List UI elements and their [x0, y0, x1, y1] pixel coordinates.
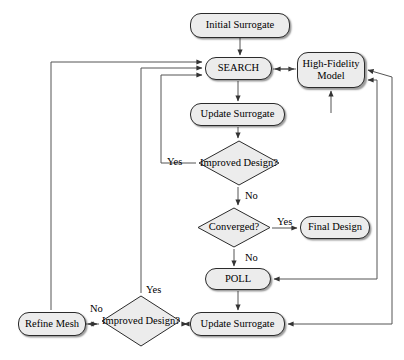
node-refine-mesh-label: Refine Mesh [25, 318, 79, 331]
edge-label-no-improved-bottom: No [90, 303, 103, 314]
node-final-design[interactable]: Final Design [300, 216, 370, 239]
node-initial-surrogate-label: Initial Surrogate [206, 19, 275, 32]
node-update-surrogate-bottom-label: Update Surrogate [201, 318, 275, 331]
node-update-surrogate-bottom[interactable]: Update Surrogate [190, 312, 285, 336]
node-refine-mesh[interactable]: Refine Mesh [18, 312, 86, 336]
edge-label-no-converged: No [245, 252, 258, 263]
edge-stub-hfm-right-lower [368, 70, 392, 77]
node-converged[interactable]: Converged? [197, 207, 271, 248]
edge-label-no-improved-top: No [245, 190, 258, 201]
node-initial-surrogate[interactable]: Initial Surrogate [190, 13, 290, 38]
diamond-shape-improved-top [198, 140, 280, 186]
node-search-label: SEARCH [218, 62, 259, 75]
node-update-surrogate-top[interactable]: Update Surrogate [190, 103, 285, 126]
flowchart-canvas: Initial Surrogate SEARCH High-Fidelity M… [0, 0, 404, 360]
edge-right-return-to-update-bottom [288, 77, 392, 324]
node-final-design-label: Final Design [308, 221, 362, 234]
node-high-fidelity-model-label-line1: High-Fidelity [302, 58, 359, 71]
node-update-surrogate-top-label: Update Surrogate [201, 108, 275, 121]
diamond-shape-converged [197, 207, 271, 248]
edge-refine-to-search [51, 62, 202, 310]
node-search[interactable]: SEARCH [205, 57, 272, 80]
node-high-fidelity-model[interactable]: High-Fidelity Model [297, 52, 365, 88]
diamond-shape-improved-bottom [101, 295, 181, 347]
edge-label-yes-converged: Yes [277, 216, 292, 227]
edge-improved-bottom-yes-to-search [141, 68, 202, 293]
node-improved-design-top[interactable]: Improved Design? [198, 140, 280, 186]
edge-label-yes-improved-bottom: Yes [146, 284, 161, 295]
node-poll[interactable]: POLL [205, 268, 271, 290]
node-high-fidelity-model-label-line2: Model [317, 70, 344, 83]
edge-right-return-to-poll [274, 80, 377, 279]
node-poll-label: POLL [225, 273, 251, 286]
node-improved-design-bottom[interactable]: Improved Design? [101, 295, 181, 347]
edge-label-yes-improved-top: Yes [167, 156, 182, 167]
